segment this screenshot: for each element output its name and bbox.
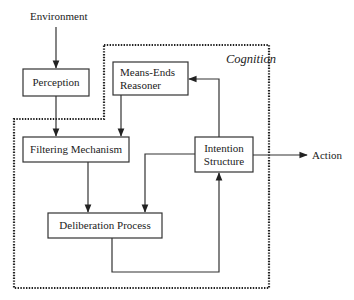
action-label: Action [312, 149, 342, 161]
deliberation-label: Deliberation Process [59, 219, 150, 231]
edge-intention-deliberation [145, 154, 195, 212]
edge-intention-means-ends [189, 79, 219, 137]
node-means-ends-reasoner: Means-Ends Reasoner [113, 62, 188, 95]
filtering-label: Filtering Mechanism [30, 143, 122, 155]
node-filtering-mechanism: Filtering Mechanism [23, 137, 129, 162]
node-perception: Perception [23, 69, 89, 96]
cognition-architecture-diagram: Cognition Environment Perception Means-E… [0, 0, 354, 300]
intention-label-line1: Intention [204, 142, 244, 154]
perception-label: Perception [32, 76, 80, 88]
node-intention-structure: Intention Structure [195, 137, 253, 172]
cognition-label: Cognition [226, 52, 276, 66]
means-ends-label-line1: Means-Ends [120, 66, 175, 78]
means-ends-label-line2: Reasoner [120, 79, 161, 91]
environment-label: Environment [30, 10, 87, 22]
node-deliberation-process: Deliberation Process [48, 213, 162, 238]
intention-label-line2: Structure [204, 155, 244, 167]
